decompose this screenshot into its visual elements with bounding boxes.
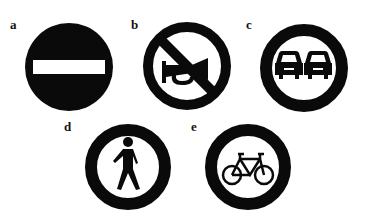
no-entry-icon bbox=[24, 22, 114, 112]
label-b: b bbox=[131, 18, 138, 31]
car-left-icon bbox=[275, 51, 303, 79]
sign-c-no-overtaking bbox=[259, 23, 349, 113]
no-horn-icon bbox=[142, 21, 232, 111]
car-right-icon bbox=[304, 51, 332, 79]
sign-d-no-pedestrians bbox=[84, 123, 172, 211]
label-d: d bbox=[64, 120, 71, 133]
no-overtaking-icon bbox=[259, 23, 349, 113]
no-pedestrians-icon bbox=[84, 123, 172, 211]
sign-e-no-bicycles bbox=[204, 123, 292, 211]
sign-a-no-entry bbox=[24, 22, 114, 112]
label-c: c bbox=[246, 18, 252, 31]
label-e: e bbox=[191, 120, 197, 133]
label-a: a bbox=[10, 18, 17, 31]
sign-b-no-horn bbox=[142, 21, 232, 111]
no-bicycles-icon bbox=[204, 123, 292, 211]
